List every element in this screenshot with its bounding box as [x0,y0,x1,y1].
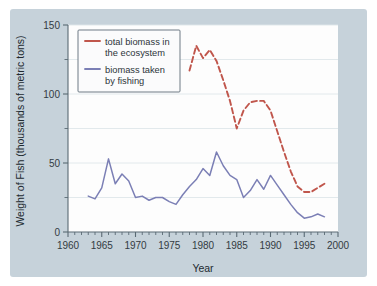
legend-label-total-biomass: the ecosystem [105,48,165,58]
x-tick-label: 1975 [158,240,181,251]
legend-label-total-biomass: total biomass in [105,37,170,47]
x-tick-label: 1985 [226,240,249,251]
x-tick-label: 1980 [192,240,215,251]
chart-figure: 0501001501960196519701975198019851990199… [0,0,377,286]
x-axis-title: Year [192,262,214,274]
line-chart-svg: 0501001501960196519701975198019851990199… [0,0,377,286]
y-tick-label: 150 [43,20,60,31]
x-tick-label: 1970 [124,240,147,251]
x-tick-label: 2000 [327,240,350,251]
legend-label-fishing-biomass: by fishing [105,76,144,86]
chart-plot-area: 0501001501960196519701975198019851990199… [0,0,377,286]
x-tick-label: 1960 [57,240,80,251]
y-tick-label: 0 [54,227,60,238]
legend-label-fishing-biomass: biomass taken [105,65,165,75]
y-tick-label: 100 [43,89,60,100]
x-tick-label: 1990 [259,240,282,251]
x-tick-label: 1995 [293,240,316,251]
y-tick-label: 50 [49,158,61,169]
chart-legend[interactable]: total biomass inthe ecosystembiomass tak… [78,30,180,92]
x-tick-label: 1965 [91,240,114,251]
y-axis-title: Weight of Fish (thousands of metric tons… [14,35,26,226]
